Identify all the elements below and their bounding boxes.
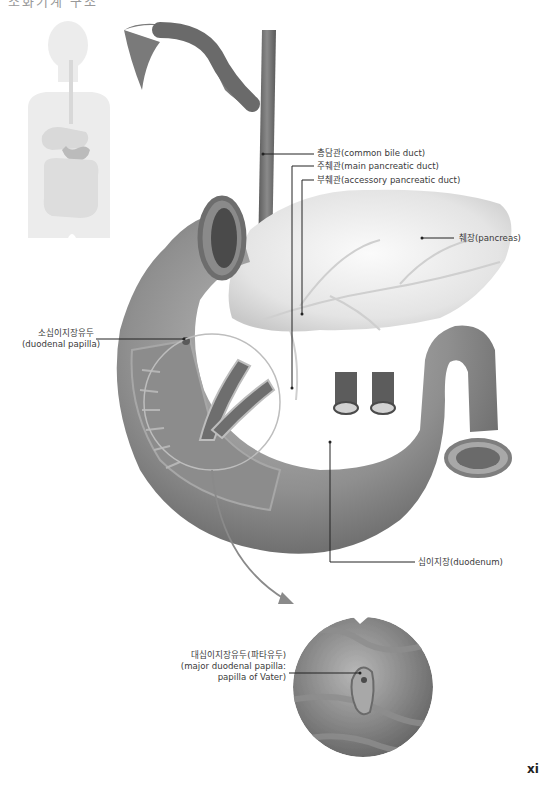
- label-major-papilla-en2: papilla of Vater): [178, 672, 286, 683]
- label-major-papilla-en1: (major duodenal papilla:: [178, 661, 286, 672]
- label-major-papilla-ko: 대십이지장유두(파타유두): [178, 650, 286, 661]
- label-minor-papilla-ko: 소십이지장유두: [22, 328, 94, 339]
- label-major-papilla: 대십이지장유두(파타유두) (major duodenal papilla: p…: [178, 650, 286, 683]
- label-common-bile-duct: 총담관(common bile duct): [317, 148, 425, 159]
- label-minor-papilla: 소십이지장유두 (duodenal papilla): [22, 328, 94, 350]
- label-accessory-pancreatic-duct: 부췌관(accessory pancreatic duct): [317, 175, 460, 186]
- textbook-page: 소화기계 구조: [0, 0, 549, 793]
- label-minor-papilla-en: (duodenal papilla): [22, 339, 94, 350]
- label-duodenum: 십이지장(duodenum): [418, 557, 503, 568]
- major-papilla-magnified: [290, 617, 440, 757]
- label-pancreas: 췌장(pancreas): [459, 233, 521, 244]
- label-main-pancreatic-duct: 주췌관(main pancreatic duct): [317, 161, 439, 172]
- page-number: xi: [527, 762, 539, 776]
- body-silhouette: [28, 21, 110, 238]
